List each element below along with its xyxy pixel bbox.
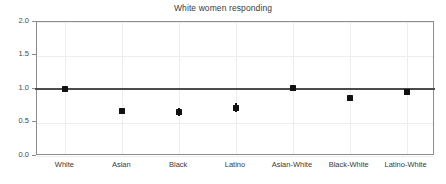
point-marker (233, 105, 239, 111)
x-axis-tick-label: Asian-White (272, 160, 312, 169)
point-marker (404, 89, 410, 95)
gridline-horizontal (37, 56, 433, 57)
x-axis-tick-label: Black (169, 160, 187, 169)
gridline-horizontal (37, 22, 433, 23)
point-marker (347, 95, 353, 101)
x-axis: WhiteAsianBlackLatinoAsian-WhiteBlack-Wh… (36, 160, 434, 176)
x-axis-tick-label: White (55, 160, 74, 169)
point-marker (62, 86, 68, 92)
y-axis: 0.00.51.01.52.0 (0, 21, 36, 155)
point-marker (176, 109, 182, 115)
gridline-horizontal (37, 156, 433, 157)
x-axis-tick-label: Black-White (329, 160, 369, 169)
plot-area (36, 21, 434, 155)
y-axis-tick-label: 1.0 (19, 83, 29, 92)
reference-line-at-one (35, 88, 435, 90)
y-axis-tick-label: 2.0 (19, 16, 29, 25)
y-axis-tick-label: 0.5 (19, 116, 29, 125)
point-marker (119, 108, 125, 114)
point-marker (290, 85, 296, 91)
y-axis-tick-label: 0.0 (19, 150, 29, 159)
x-axis-tick-label: Asian (112, 160, 131, 169)
x-axis-tick-label: Latino (225, 160, 245, 169)
x-axis-tick-label: Latino-White (385, 160, 427, 169)
chart-title: White women responding (0, 3, 446, 13)
y-axis-tick-label: 1.5 (19, 49, 29, 58)
gridline-horizontal (37, 123, 433, 124)
chart-figure: White women responding 0.00.51.01.52.0 W… (0, 0, 446, 184)
